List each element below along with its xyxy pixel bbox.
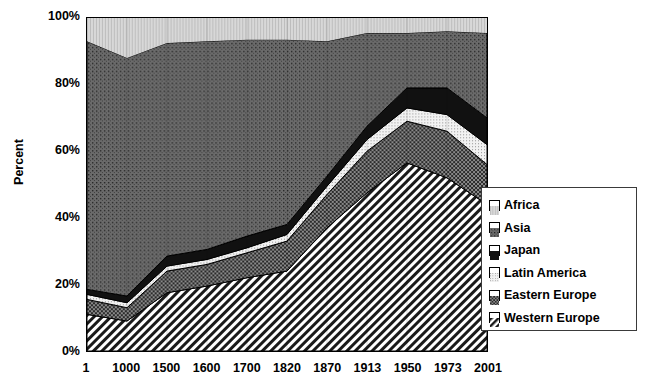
legend-label: Japan <box>504 243 540 257</box>
plot-area <box>86 17 488 352</box>
legend-label: Western Europe <box>504 311 600 325</box>
legend-label: Asia <box>504 221 530 235</box>
y-axis-title: Percent <box>12 117 26 207</box>
legend-item-asia[interactable]: Asia <box>489 217 636 240</box>
y-tick-label: 80% <box>34 77 80 89</box>
chart-screenshot: Percent 100%80%60%40%20%0% <box>0 0 647 390</box>
x-tick-label: 1 <box>83 361 90 375</box>
legend-label: Africa <box>504 198 539 212</box>
x-tick-label: 1820 <box>273 361 301 375</box>
y-tick-label: 20% <box>34 278 80 290</box>
swatch-asia-icon <box>489 222 500 233</box>
legend-item-latin-america[interactable]: Latin America <box>489 262 636 285</box>
x-tick-label: 1913 <box>353 361 381 375</box>
swatch-eastern-europe-icon <box>489 290 500 301</box>
legend-item-eastern-europe[interactable]: Eastern Europe <box>489 284 636 307</box>
y-tick-label: 100% <box>34 10 80 22</box>
x-tick-label: 2001 <box>474 361 502 375</box>
swatch-western-europe-icon <box>489 312 500 323</box>
legend-item-western-europe[interactable]: Western Europe <box>489 307 636 330</box>
x-tick-label: 1500 <box>152 361 180 375</box>
legend-item-japan[interactable]: Japan <box>489 239 636 262</box>
x-tick-label: 1600 <box>193 361 221 375</box>
y-tick-label: 0% <box>34 345 80 357</box>
chart-legend: AfricaAsiaJapanLatin AmericaEastern Euro… <box>481 187 637 331</box>
x-tick-label: 1950 <box>394 361 422 375</box>
swatch-africa-icon <box>489 200 500 211</box>
x-tick-label: 1870 <box>313 361 341 375</box>
legend-label: Latin America <box>504 266 586 280</box>
y-tick-label: 60% <box>34 144 80 156</box>
legend-label: Eastern Europe <box>504 288 596 302</box>
x-tick-label: 1973 <box>434 361 462 375</box>
x-axis-tick-labels: 1100015001600170018201870191319501973200… <box>0 357 647 379</box>
legend-item-africa[interactable]: Africa <box>489 194 636 217</box>
x-tick-label: 1700 <box>233 361 261 375</box>
stacked-area-plot <box>87 18 487 351</box>
swatch-japan-icon <box>489 245 500 256</box>
y-axis-tick-labels: 100%80%60%40%20%0% <box>30 0 80 390</box>
swatch-latin-america-icon <box>489 267 500 278</box>
x-tick-label: 1000 <box>112 361 140 375</box>
y-tick-label: 40% <box>34 211 80 223</box>
